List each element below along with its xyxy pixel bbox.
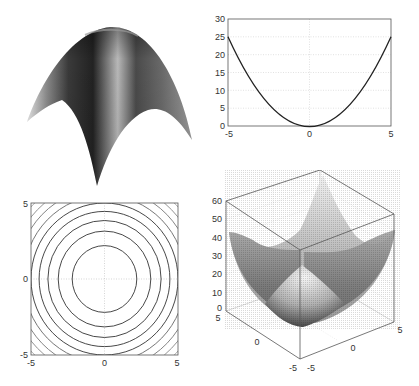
contour-plot-bottom-left: 5 0 -5 -5 0 5 bbox=[0, 193, 205, 386]
svg-text:40: 40 bbox=[212, 233, 222, 243]
svg-text:-5: -5 bbox=[289, 363, 297, 373]
contour-chart: 5 0 -5 -5 0 5 bbox=[0, 193, 205, 386]
right-axis-tick-labels: -5 0 5 bbox=[307, 325, 403, 373]
x-tick-labels: -5 0 5 bbox=[27, 358, 180, 368]
svg-text:15: 15 bbox=[215, 68, 225, 78]
svg-text:0: 0 bbox=[23, 274, 28, 284]
z-tick-labels: 60 50 40 30 20 10 0 bbox=[212, 196, 222, 313]
line-plot-top-right: 30 25 20 15 10 5 0 -5 0 5 bbox=[205, 0, 419, 150]
svg-text:5: 5 bbox=[215, 313, 220, 323]
y-tick-labels: 30 25 20 15 10 5 0 bbox=[215, 14, 225, 131]
svg-text:0: 0 bbox=[350, 343, 355, 353]
paraboloid-surface bbox=[0, 0, 205, 193]
svg-text:0: 0 bbox=[217, 303, 222, 313]
svg-text:0: 0 bbox=[254, 337, 259, 347]
svg-text:20: 20 bbox=[215, 50, 225, 60]
svg-text:-5: -5 bbox=[27, 358, 35, 368]
svg-text:5: 5 bbox=[174, 358, 179, 368]
svg-text:10: 10 bbox=[215, 86, 225, 96]
mesh-plot-bottom-right: 60 50 40 30 20 10 0 5 0 -5 -5 0 5 bbox=[205, 170, 419, 386]
svg-text:5: 5 bbox=[220, 103, 225, 113]
svg-text:20: 20 bbox=[212, 269, 222, 279]
svg-text:10: 10 bbox=[212, 288, 222, 298]
svg-text:5: 5 bbox=[397, 325, 402, 335]
svg-text:-5: -5 bbox=[225, 129, 233, 139]
parabola-line-chart: 30 25 20 15 10 5 0 -5 0 5 bbox=[205, 0, 419, 150]
svg-text:0: 0 bbox=[307, 129, 312, 139]
svg-text:50: 50 bbox=[212, 214, 222, 224]
paraboloid-mesh-3d: 60 50 40 30 20 10 0 5 0 -5 -5 0 5 bbox=[205, 170, 419, 386]
svg-text:-5: -5 bbox=[307, 363, 315, 373]
grid-lines bbox=[228, 19, 391, 126]
y-tick-labels: 5 0 -5 bbox=[20, 199, 28, 360]
x-tick-labels: -5 0 5 bbox=[225, 129, 394, 139]
surface-plot-top-left bbox=[0, 0, 205, 193]
svg-text:30: 30 bbox=[212, 251, 222, 261]
svg-text:25: 25 bbox=[215, 32, 225, 42]
svg-text:5: 5 bbox=[23, 199, 28, 209]
svg-text:5: 5 bbox=[388, 129, 393, 139]
surface-mesh bbox=[225, 170, 400, 330]
svg-text:30: 30 bbox=[215, 14, 225, 24]
svg-text:60: 60 bbox=[212, 196, 222, 206]
grid-lines bbox=[31, 203, 178, 355]
svg-text:0: 0 bbox=[102, 358, 107, 368]
